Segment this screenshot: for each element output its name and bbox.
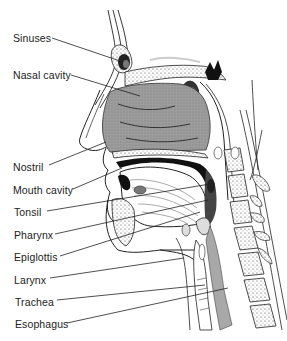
label-pharynx: Pharynx bbox=[14, 229, 53, 241]
label-larynx: Larynx bbox=[14, 274, 46, 286]
leader-line-mouth-cavity bbox=[73, 168, 122, 189]
label-tonsil: Tonsil bbox=[14, 206, 41, 218]
spinous-processes bbox=[250, 175, 272, 264]
label-epiglottis: Epiglottis bbox=[14, 251, 58, 263]
label-esophagus: Esophagus bbox=[15, 318, 68, 330]
leader-line-nostril bbox=[49, 142, 106, 165]
label-mouth-cavity: Mouth cavity bbox=[13, 184, 73, 196]
anatomy-figure: Sinuses Nasal cavity Nostril Mouth cavit… bbox=[0, 0, 287, 341]
label-trachea: Trachea bbox=[15, 296, 54, 308]
leader-line-larynx bbox=[50, 258, 184, 278]
label-nostril: Nostril bbox=[13, 161, 43, 173]
label-sinuses: Sinuses bbox=[13, 32, 51, 44]
label-nasal-cavity: Nasal cavity bbox=[13, 69, 71, 81]
pharynx-region bbox=[205, 170, 217, 226]
